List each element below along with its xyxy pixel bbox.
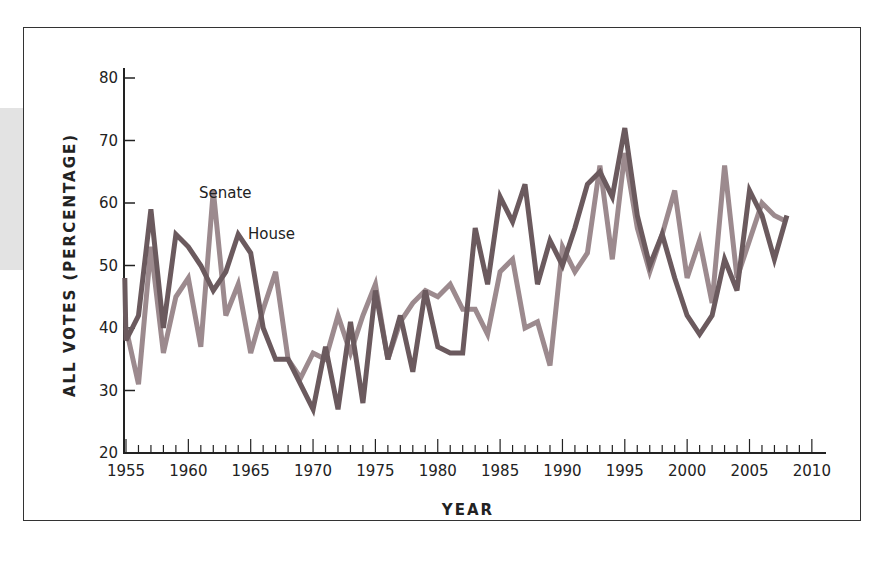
x-tick-label: 1960 (169, 462, 207, 480)
y-tick-label: 70 (99, 132, 118, 150)
x-tick-label: 1980 (419, 462, 457, 480)
y-tick-label: 60 (99, 194, 118, 212)
house-label: House (248, 225, 295, 243)
y-tick-label: 80 (99, 69, 118, 87)
y-tick-label: 30 (99, 382, 118, 400)
x-tick-label: 2005 (730, 462, 768, 480)
y-tick-label: 20 (99, 444, 118, 462)
y-tick-label: 50 (99, 257, 118, 275)
x-tick-label: 2010 (793, 462, 831, 480)
x-tick-label: 1965 (232, 462, 270, 480)
y-axis-title: ALL VOTES (PERCENTAGE) (61, 133, 79, 397)
x-tick-label: 1990 (543, 462, 581, 480)
senate-label: Senate (199, 184, 252, 202)
x-tick-label: 1955 (107, 462, 145, 480)
x-tick-label: 1970 (294, 462, 332, 480)
series-lines (125, 128, 787, 409)
x-tick-label: 2000 (668, 462, 706, 480)
x-axis-title: YEAR (441, 501, 494, 519)
line-chart: 2030405060708019551960196519701975198019… (0, 0, 882, 577)
y-tick-label: 40 (99, 319, 118, 337)
x-tick-label: 1975 (356, 462, 394, 480)
x-tick-label: 1995 (606, 462, 644, 480)
x-tick-label: 1985 (481, 462, 519, 480)
